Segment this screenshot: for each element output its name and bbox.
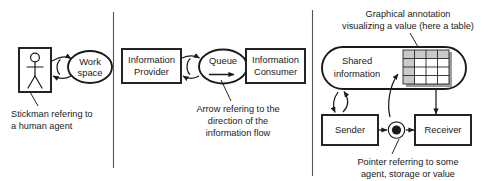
diagram-canvas: Work space Stickman refering to a human … (0, 0, 489, 181)
sender-node: Sender (322, 115, 378, 145)
annotation-caption-line1: Graphical annotation (366, 9, 451, 19)
receiver-node: Receiver (415, 115, 471, 145)
flow-caption-line1: Arrow refering to the (196, 104, 279, 114)
stickman-caption-line2: a human agent (11, 121, 73, 131)
flow-caption-line3: information flow (206, 128, 271, 138)
shared-information-label-line2: information (334, 68, 380, 79)
sender-label: Sender (335, 124, 365, 135)
queue-label: Queue (209, 55, 237, 66)
information-consumer-label-line2: Consumer (254, 66, 297, 77)
shared-sender-flow (334, 92, 348, 113)
panel-information-flow: Information Provider Queue (122, 49, 305, 138)
pointer-caption-leader (392, 139, 399, 154)
pointer-caption-line2: agent, storage or value (361, 169, 455, 179)
information-consumer-label-line1: Information (252, 54, 299, 65)
pointer-caption-line1: Pointer referring to some (357, 157, 458, 167)
panel-shared-information: Graphical annotation visualizing a value… (322, 9, 474, 179)
stickman-caption-line1: Stickman refering to (11, 109, 93, 119)
work-space-label-line1: Work (79, 56, 101, 67)
provider-queue-flow (182, 56, 200, 79)
flow-caption: Arrow refering to the direction of the i… (196, 104, 279, 138)
annotation-caption: Graphical annotation visualizing a value… (342, 9, 474, 31)
work-space-node: Work space (68, 51, 112, 83)
shared-information-label-line1: Shared (342, 55, 372, 66)
stickman-caption: Stickman refering to a human agent (11, 109, 93, 131)
information-provider-label-line1: Information (128, 54, 175, 65)
information-provider-node: Information Provider (122, 49, 181, 83)
panel-human-agent: Work space Stickman refering to a human … (11, 48, 112, 131)
receiver-label: Receiver (425, 124, 462, 135)
pointer-caption: Pointer referring to some agent, storage… (357, 157, 458, 179)
table-annotation (403, 50, 452, 87)
queue-node: Queue (199, 50, 247, 84)
information-provider-label-line2: Provider (134, 66, 169, 77)
pointer-icon (388, 122, 404, 138)
work-space-label-line2: space (77, 67, 102, 78)
stickman-caption-leader (30, 92, 38, 106)
annotation-caption-line2: visualizing a value (here a table) (342, 21, 474, 31)
information-consumer-node: Information Consumer (246, 49, 305, 83)
flow-caption-line2: direction of the (208, 116, 268, 126)
